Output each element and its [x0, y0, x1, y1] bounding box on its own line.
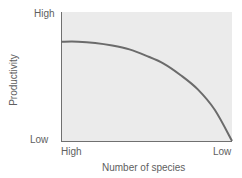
- chart: High Low High Low Number of species Prod…: [0, 0, 242, 178]
- y-axis-title: Productivity: [8, 54, 19, 106]
- x-tick-low: Low: [213, 146, 231, 157]
- x-axis-title: Number of species: [102, 162, 185, 173]
- plot-area: [61, 12, 232, 141]
- y-tick-high: High: [34, 8, 55, 19]
- y-tick-low: Low: [30, 134, 48, 145]
- plot-svg: [0, 0, 242, 178]
- x-tick-high: High: [61, 146, 82, 157]
